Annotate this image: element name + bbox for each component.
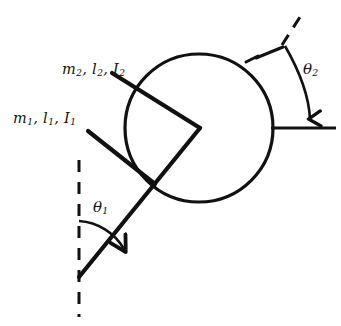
rod2-inertia-subscript: 2 [119, 68, 125, 78]
rod2-sep-1: , [82, 61, 92, 77]
theta1-symbol: θ [93, 198, 102, 216]
theta2-subscript: 2 [312, 67, 318, 78]
rod1-sep-1: , [33, 110, 43, 126]
diagram-canvas [0, 0, 341, 326]
mechanics-diagram-figure: m1, l1, I1 m2, l2, I2 θ1 θ2 [0, 0, 341, 326]
rod2-sep-2: , [103, 61, 113, 77]
rod1-inertia-subscript: 1 [70, 117, 76, 127]
disk-reference-dashed-line [282, 17, 300, 45]
rod-1-parameter-label: m1, l1, I1 [13, 111, 76, 127]
rod-2-parameter-label: m2, l2, I2 [62, 62, 125, 78]
rod1-sep-2: , [54, 110, 64, 126]
disk-reference-solid-segment [256, 47, 283, 58]
rod-1-upper-end [88, 131, 155, 184]
theta2-arc-arrow [285, 46, 310, 119]
rod2-mass-symbol: m [62, 61, 76, 77]
theta1-arc-arrow [79, 221, 124, 249]
theta1-subscript: 1 [102, 205, 108, 216]
theta2-label: θ2 [303, 62, 318, 77]
theta1-label: θ1 [93, 200, 108, 215]
rod1-mass-symbol: m [13, 110, 27, 126]
theta2-symbol: θ [303, 60, 312, 78]
